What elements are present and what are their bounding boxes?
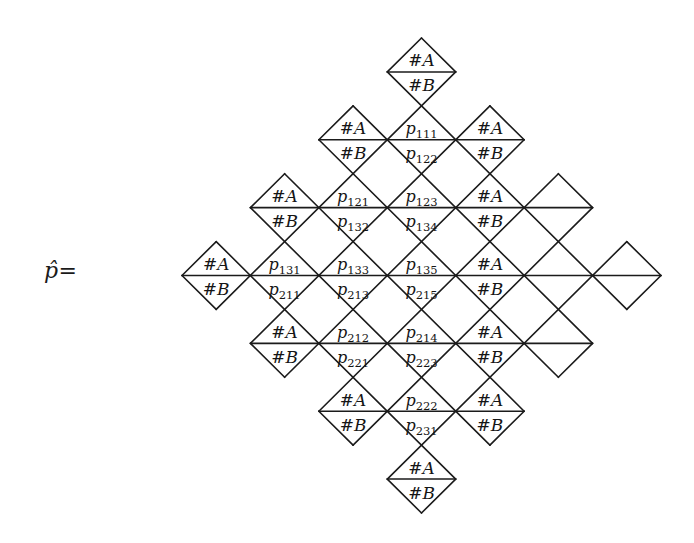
- cell-label-hash: #B: [271, 347, 298, 367]
- lhs-equation-label: p̂=: [44, 258, 78, 283]
- grid-line: [627, 276, 661, 310]
- cell-label-hash: #A: [477, 118, 504, 138]
- equals-sign: =: [59, 258, 78, 283]
- cell-label-p: p132: [337, 212, 369, 234]
- cell-label-hash: #B: [477, 211, 504, 231]
- cell-label-p: p212: [337, 323, 369, 345]
- grid-line: [558, 174, 592, 208]
- cell-label-hash: #A: [271, 322, 298, 342]
- cell-label-hash: #B: [477, 143, 504, 163]
- cell-label-hash: #B: [408, 483, 435, 503]
- cell-label-hash: #A: [408, 50, 435, 70]
- cell-label-hash: #B: [271, 211, 298, 231]
- cell-label-p: p122: [405, 144, 437, 166]
- diamond-figure: p̂= #A#B#A#Bp111p122#A#B#A#Bp121p132p123…: [0, 0, 694, 543]
- cell-label-hash: #A: [271, 186, 298, 206]
- diamond-grid-svg: #A#B#A#Bp111p122#A#B#A#Bp121p132p123p134…: [0, 0, 694, 543]
- cell-label-hash: #B: [408, 75, 435, 95]
- grid-line: [627, 242, 661, 276]
- cell-label-p: p111: [405, 119, 437, 141]
- cell-label-p: p214: [405, 323, 437, 345]
- cell-label-p: p211: [268, 280, 300, 302]
- cell-label-p: p123: [405, 187, 437, 209]
- cell-label-p: p133: [337, 255, 369, 277]
- cell-label-hash: #B: [203, 279, 230, 299]
- cell-label-hash: #B: [340, 415, 367, 435]
- p-hat-symbol: p̂: [44, 258, 59, 283]
- cell-label-hash: #A: [477, 322, 504, 342]
- cell-label-hash: #B: [340, 143, 367, 163]
- cell-label-p: p134: [405, 212, 437, 234]
- cell-label-hash: #B: [477, 415, 504, 435]
- cell-label-hash: #A: [408, 458, 435, 478]
- cell-label-p: p213: [337, 280, 369, 302]
- cell-label-hash: #A: [340, 118, 367, 138]
- cell-label-hash: #A: [340, 390, 367, 410]
- cell-label-p: p231: [405, 416, 437, 438]
- cell-label-p: p215: [405, 280, 437, 302]
- cell-label-p: p222: [405, 391, 437, 413]
- cell-labels: #A#B#A#Bp111p122#A#B#A#Bp121p132p123p134…: [203, 50, 503, 502]
- grid-line: [353, 208, 593, 446]
- cell-label-p: p121: [337, 187, 369, 209]
- cell-label-hash: #B: [477, 347, 504, 367]
- cell-label-hash: #A: [477, 254, 504, 274]
- cell-label-p: p131: [268, 255, 300, 277]
- grid-line: [353, 106, 593, 343]
- cell-label-hash: #A: [477, 186, 504, 206]
- grid-line: [558, 343, 592, 377]
- cell-label-p: p221: [337, 348, 369, 370]
- cell-label-hash: #A: [477, 390, 504, 410]
- cell-label-p: p135: [405, 255, 437, 277]
- cell-label-hash: #B: [477, 279, 504, 299]
- cell-label-hash: #A: [203, 254, 230, 274]
- cell-label-p: p223: [405, 348, 437, 370]
